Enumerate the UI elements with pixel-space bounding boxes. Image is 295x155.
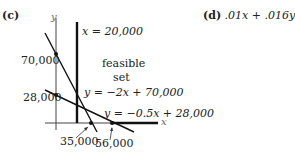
point-56000 <box>110 121 114 125</box>
line1-label: y = −2x + 70,000 <box>84 87 184 98</box>
part-c-label: (c) <box>2 10 19 21</box>
point-35000 <box>89 121 93 125</box>
y-tick-28000: 28,000 <box>23 92 62 103</box>
region-label-line2: set <box>113 72 130 83</box>
part-d-expression: .01x + .016y <box>225 9 295 22</box>
feasible-set-graph <box>0 0 295 155</box>
x-axis-label: x <box>161 117 167 127</box>
region-label-line1: feasible <box>102 58 145 69</box>
y-axis-label: y <box>51 12 57 22</box>
x-tick-35000: 35,000 <box>60 136 99 147</box>
line2-label: y = −0.5x + 28,000 <box>104 108 214 119</box>
part-d: (d) .01x + .016y <box>203 10 295 21</box>
part-d-label: (d) <box>203 9 221 22</box>
vertical-line-label: x = 20,000 <box>82 26 143 37</box>
arrowhead-56000 <box>110 127 113 131</box>
line-y-neg2x-70000 <box>45 33 97 132</box>
y-tick-70000: 70,000 <box>21 55 60 66</box>
x-tick-56000: 56,000 <box>95 138 134 149</box>
